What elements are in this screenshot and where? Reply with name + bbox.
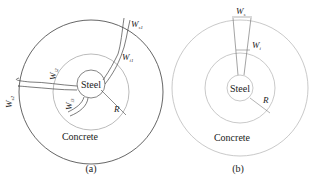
panel-b: Ws Wi Steel Concrete R (b) xyxy=(172,6,308,175)
caption-a: (a) xyxy=(85,163,96,175)
crack-edge-right xyxy=(244,18,251,75)
crack-edge-left xyxy=(233,18,238,75)
radius-label: R xyxy=(262,95,269,105)
crack-2-edge xyxy=(16,78,77,86)
crack-width-wi1: Wi1 xyxy=(122,52,133,63)
crack-width-wi2: Wi2 xyxy=(48,68,59,80)
steel-label: Steel xyxy=(81,79,101,90)
svg-text:Ws2: Ws2 xyxy=(4,96,15,108)
radius-label: R xyxy=(113,104,120,114)
figure: Steel Concrete R Ws1 Wi1 Ws2 Wi2 Wi3 (a)… xyxy=(0,0,315,184)
svg-text:Wi2: Wi2 xyxy=(48,68,59,80)
panel-a: Steel Concrete R Ws1 Wi1 Ws2 Wi2 Wi3 (a) xyxy=(4,18,163,175)
crack-width-wi3: Wi3 xyxy=(64,98,75,110)
svg-text:Wi3: Wi3 xyxy=(64,98,75,110)
concrete-label: Concrete xyxy=(214,132,251,143)
crack-width-ws1: Ws1 xyxy=(131,19,143,30)
caption-b: (b) xyxy=(232,163,244,175)
crack-1-edge xyxy=(103,18,124,80)
crack-width-wi: Wi xyxy=(252,40,262,51)
crack-width-ws2: Ws2 xyxy=(4,96,15,108)
crack-width-ws: Ws xyxy=(236,6,246,17)
crack-2-edge xyxy=(18,86,77,90)
steel-label: Steel xyxy=(230,83,250,94)
concrete-label: Concrete xyxy=(62,131,99,142)
